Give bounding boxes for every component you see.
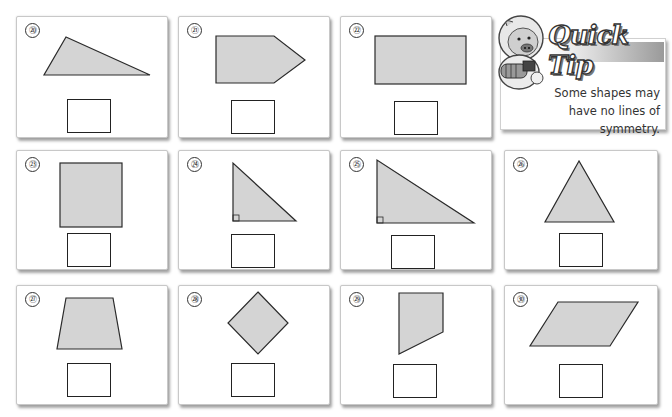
answer-box[interactable]	[393, 364, 437, 398]
problem-card-25: ㉕	[340, 150, 492, 270]
quick-tip-title: Quick Tip	[548, 20, 668, 56]
answer-box[interactable]	[231, 100, 275, 134]
answer-box[interactable]	[67, 233, 111, 267]
problem-card-29: ㉙	[340, 285, 492, 405]
answer-box[interactable]	[394, 101, 438, 135]
problem-card-26: ㉖	[504, 150, 658, 270]
pig-mascot-icon	[493, 12, 555, 92]
answer-box[interactable]	[231, 363, 275, 397]
answer-box[interactable]	[559, 364, 603, 398]
problem-card-20: ⑳	[16, 16, 168, 138]
answer-box[interactable]	[67, 99, 111, 133]
problem-card-23: ㉓	[16, 150, 168, 270]
answer-box[interactable]	[391, 235, 435, 269]
problem-card-24: ㉔	[178, 150, 330, 270]
problem-card-28: ㉘	[178, 285, 330, 405]
problem-card-30: ㉚	[504, 285, 658, 405]
quick-tip-line-2: have no lines of symmetry.	[506, 102, 660, 138]
problem-card-21: ㉑	[178, 16, 330, 138]
answer-box[interactable]	[559, 233, 603, 267]
quick-tip-text: Some shapes may have no lines of symmetr…	[506, 84, 660, 138]
problem-card-27: ㉗	[16, 285, 168, 405]
answer-box[interactable]	[67, 363, 111, 397]
answer-box[interactable]	[231, 234, 275, 268]
problem-card-22: ㉒	[340, 16, 492, 138]
